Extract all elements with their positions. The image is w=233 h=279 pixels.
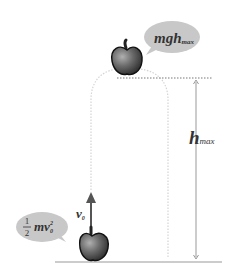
- max-height-label: hmax: [189, 127, 215, 149]
- svg-text:1: 1: [25, 216, 30, 226]
- apple-top-icon: [112, 40, 142, 74]
- velocity-label: v0: [76, 206, 85, 221]
- velocity-arrow: [86, 192, 96, 228]
- svg-text:2: 2: [25, 228, 30, 238]
- apple-bottom-icon: [80, 227, 109, 261]
- potential-energy-bubble: mghmax: [144, 21, 200, 55]
- height-arrow: [194, 80, 199, 259]
- kinetic-energy-bubble: 1 2 mv02: [16, 212, 68, 242]
- trajectory-path: [91, 68, 168, 258]
